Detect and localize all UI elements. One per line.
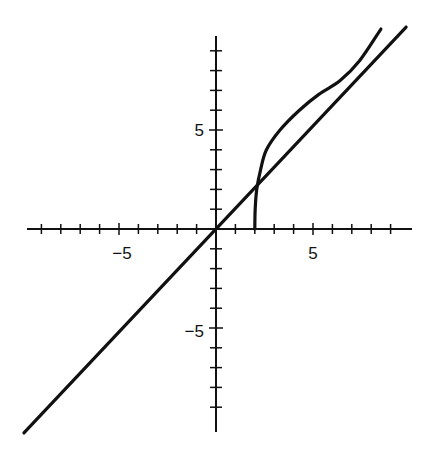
axes	[27, 36, 412, 432]
y-tick-label-neg5: −5	[185, 322, 204, 341]
chart: −5 5 5 −5	[0, 0, 429, 453]
x-tick-label-5: 5	[308, 244, 317, 263]
x-tick-label-neg5: −5	[112, 244, 131, 263]
curve	[255, 29, 381, 229]
y-tick-label-5: 5	[195, 121, 204, 140]
